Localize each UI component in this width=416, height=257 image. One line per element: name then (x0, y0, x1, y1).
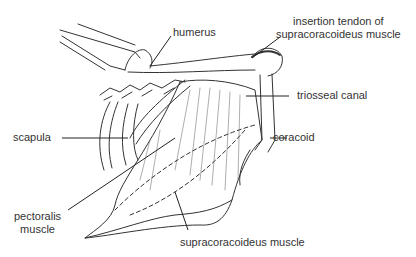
ulna-outline (60, 30, 140, 58)
label-insertion-tendon-line1: insertion tendon of (276, 15, 401, 28)
humerus-shaft (150, 54, 255, 66)
leader-humerus (150, 36, 171, 66)
label-pectoralis: pectoralis muscle (14, 210, 61, 236)
label-triosseal-canal: triosseal canal (297, 89, 367, 102)
humerus-head (125, 50, 152, 70)
label-pectoralis-line1: pectoralis (14, 210, 61, 223)
label-insertion-tendon-line2: supracoracoideus muscle (276, 28, 401, 41)
leader-supracoracoideus (175, 192, 188, 230)
label-scapula: scapula (13, 131, 51, 144)
pectoralis-outline (85, 80, 262, 238)
label-pectoralis-line2: muscle (14, 223, 61, 236)
label-humerus: humerus (173, 26, 216, 39)
label-supracoracoideus: supracoracoideus muscle (180, 236, 305, 249)
leader-pectoralis (68, 138, 175, 210)
label-insertion-tendon: insertion tendon of supracoracoideus mus… (276, 15, 401, 41)
label-coracoid: coracoid (273, 131, 315, 144)
